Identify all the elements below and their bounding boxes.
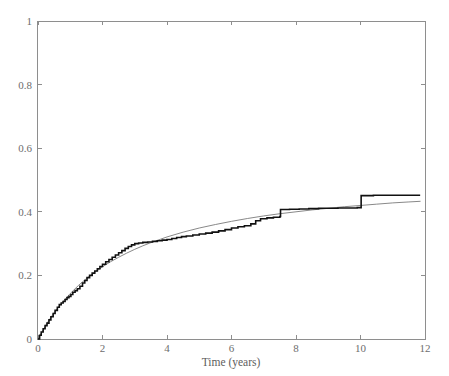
y-axis-ticks — [38, 21, 425, 339]
x-tick-label: 8 — [293, 342, 299, 354]
x-axis-title: Time (years) — [202, 356, 261, 369]
x-tick-label: 2 — [100, 342, 106, 354]
plot-frame — [38, 22, 426, 340]
y-tick-label: 1 — [27, 15, 33, 27]
x-axis-ticks — [38, 21, 425, 339]
figure-container: 024681012 00.20.40.60.81 Time (years) — [0, 0, 449, 376]
y-tick-label: 0.2 — [18, 269, 32, 281]
x-tick-label: 10 — [355, 342, 367, 354]
empirical-step-curve — [38, 195, 420, 339]
x-axis-tick-labels: 024681012 — [35, 342, 430, 354]
y-axis-tick-labels: 00.20.40.60.81 — [18, 15, 32, 345]
x-tick-label: 0 — [35, 342, 41, 354]
x-tick-label: 6 — [229, 342, 235, 354]
x-tick-label: 12 — [420, 342, 431, 354]
chart-canvas: 024681012 00.20.40.60.81 Time (years) — [0, 0, 449, 376]
y-tick-label: 0 — [27, 333, 33, 345]
y-tick-label: 0.4 — [18, 206, 32, 218]
y-tick-label: 0.8 — [18, 79, 32, 91]
y-tick-label: 0.6 — [18, 142, 32, 154]
x-tick-label: 4 — [164, 342, 170, 354]
